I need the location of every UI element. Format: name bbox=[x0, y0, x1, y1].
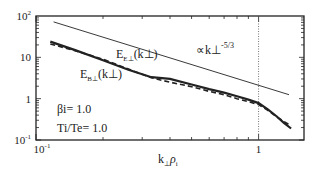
y-tick-label: 10 bbox=[20, 51, 32, 63]
x-axis-label: k⊥ρi bbox=[158, 152, 178, 168]
y-tick-label: 10-1 bbox=[14, 133, 31, 146]
eb-series-label: EB⊥(k⊥) bbox=[80, 67, 122, 83]
x-tick-label: 1 bbox=[256, 143, 262, 155]
ee-subscript: E⊥ bbox=[123, 55, 133, 63]
ee-series-label: EE⊥(k⊥) bbox=[116, 47, 158, 63]
x-tick-label: 10-1 bbox=[34, 142, 51, 155]
reference-power-law-line bbox=[54, 22, 289, 95]
ref-label: ∝k⊥-5/3 bbox=[196, 41, 234, 57]
y-tick-label: 102 bbox=[17, 9, 32, 22]
y-tick-label: 1 bbox=[26, 93, 32, 105]
eb-subscript: B⊥ bbox=[87, 75, 98, 83]
temperature-annotation: Ti/Te= 1.0 bbox=[57, 121, 107, 135]
ref-exponent: -5/3 bbox=[221, 41, 234, 50]
ee-argument: (k⊥) bbox=[134, 47, 158, 61]
chart: 10-111010210-11 ∝k⊥-5/3 EE⊥(k⊥) EB⊥(k⊥) … bbox=[0, 0, 311, 174]
eb-argument: (k⊥) bbox=[98, 67, 122, 81]
beta-annotation: βi= 1.0 bbox=[57, 102, 91, 116]
